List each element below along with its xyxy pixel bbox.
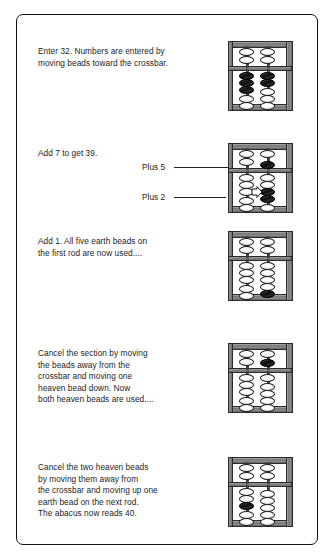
- heaven-bead: [260, 48, 275, 56]
- abacus-add-7: [226, 142, 298, 214]
- earth-bead-active: [260, 79, 275, 87]
- panel-list: Enter 32. Numbers are entered by moving …: [0, 0, 334, 559]
- earth-bead: [239, 388, 254, 396]
- abacus-reads-40: [226, 456, 298, 528]
- earth-bead-active: [260, 290, 275, 298]
- crossbar: [228, 256, 292, 261]
- heaven-bead: [260, 150, 275, 158]
- earth-bead: [239, 276, 254, 284]
- panel-cancel-heaven-text: Cancel the two heaven beads by moving th…: [38, 462, 210, 520]
- earth-bead: [239, 102, 254, 110]
- heaven-bead-active: [260, 161, 275, 169]
- frame-top-rail: [228, 343, 292, 350]
- abacus-add-1: [226, 230, 298, 302]
- heaven-bead: [239, 238, 254, 246]
- heaven-bead: [239, 150, 254, 158]
- abacus-instruction-page: Enter 32. Numbers are entered by moving …: [0, 0, 334, 559]
- frame-top-rail: [228, 231, 292, 238]
- earth-bead: [260, 518, 275, 526]
- heaven-bead: [239, 158, 254, 166]
- abacus-frame: [226, 40, 298, 112]
- frame-right-post: [286, 457, 293, 527]
- heaven-bead: [260, 350, 275, 358]
- earth-bead: [239, 404, 254, 412]
- panel-cancel-section-text: Cancel the section by moving the beads a…: [38, 348, 210, 406]
- frame-left-post: [228, 41, 233, 111]
- frame-left-post: [228, 457, 233, 527]
- frame-top-rail: [228, 41, 292, 48]
- frame-left-post: [228, 143, 233, 213]
- heaven-bead: [239, 350, 254, 358]
- earth-bead: [260, 404, 275, 412]
- heaven-bead: [239, 472, 254, 480]
- abacus-frame: [226, 142, 298, 214]
- frame-left-post: [228, 343, 233, 413]
- frame-left-post: [228, 231, 233, 301]
- earth-bead: [260, 102, 275, 110]
- callout-plus-5-label: Plus 5: [142, 162, 165, 172]
- move-arrow-icon: [251, 186, 263, 198]
- earth-bead: [239, 204, 254, 212]
- frame-top-rail: [228, 457, 292, 464]
- earth-bead: [239, 292, 254, 300]
- crossbar: [228, 482, 292, 487]
- callout-plus-5-leader: [174, 167, 232, 168]
- earth-bead-active: [239, 502, 254, 510]
- frame-right-post: [286, 41, 293, 111]
- heaven-bead: [260, 56, 275, 64]
- abacus-frame: [226, 456, 298, 528]
- panel-add-1-text: Add 1. All five earth beads on the first…: [38, 236, 210, 259]
- callout-plus-2-label: Plus 2: [142, 192, 165, 202]
- heaven-bead: [260, 238, 275, 246]
- abacus-cancel-section: [226, 342, 298, 414]
- heaven-bead: [239, 56, 254, 64]
- heaven-bead: [239, 358, 254, 366]
- heaven-bead: [239, 48, 254, 56]
- crossbar: [228, 168, 292, 173]
- abacus-frame: [226, 342, 298, 414]
- earth-bead-active: [239, 86, 254, 94]
- abacus-enter-32: [226, 40, 298, 112]
- heaven-bead: [239, 464, 254, 472]
- crossbar: [228, 368, 292, 373]
- abacus-frame: [226, 230, 298, 302]
- heaven-bead: [239, 246, 254, 254]
- heaven-bead: [260, 464, 275, 472]
- callout-plus-2-leader: [174, 197, 226, 198]
- crossbar: [228, 66, 292, 71]
- heaven-bead: [260, 246, 275, 254]
- frame-right-post: [286, 343, 293, 413]
- earth-bead: [260, 204, 275, 212]
- earth-bead: [239, 518, 254, 526]
- frame-right-post: [286, 143, 293, 213]
- heaven-bead: [260, 472, 275, 480]
- panel-enter-32-text: Enter 32. Numbers are entered by moving …: [38, 46, 210, 69]
- earth-bead: [260, 374, 275, 382]
- heaven-bead-active: [260, 359, 275, 367]
- frame-top-rail: [228, 143, 292, 150]
- panel-add-7-text: Add 7 to get 39.: [38, 148, 210, 160]
- frame-right-post: [286, 231, 293, 301]
